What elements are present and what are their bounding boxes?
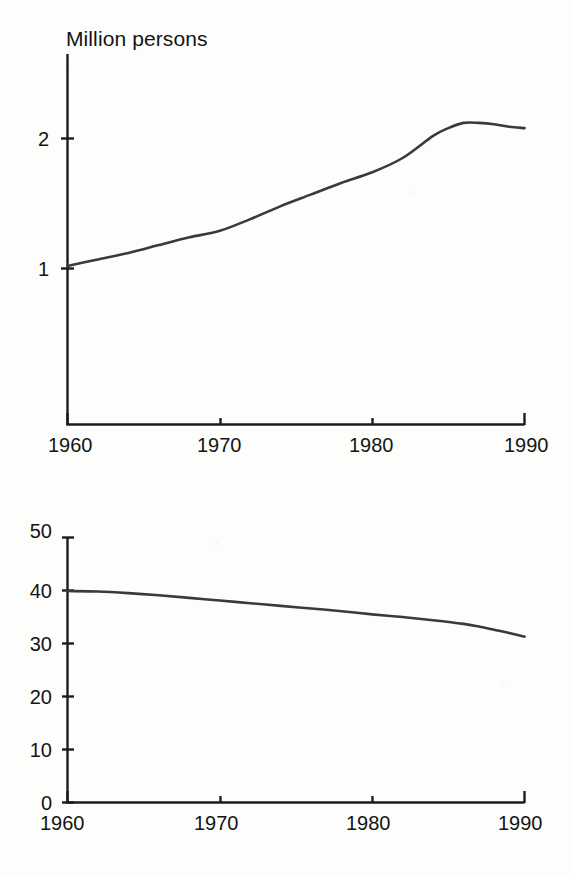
x-tick-label-1980: 1980 bbox=[349, 434, 394, 456]
chart-percent-employment: 50 40 30 20 10 0 1960 1970 1980 1990 bbox=[0, 460, 571, 875]
x-tick-label-1960: 1960 bbox=[40, 812, 85, 834]
y-tick-label-2: 2 bbox=[38, 128, 49, 150]
x-tick-label-1990: 1990 bbox=[498, 812, 543, 834]
y-tick-labels-bottom: 50 40 30 20 10 0 bbox=[30, 520, 52, 814]
y-tick-label-20: 20 bbox=[30, 686, 52, 708]
series-line-million-persons bbox=[68, 122, 525, 265]
y-tick-label-0: 0 bbox=[41, 792, 52, 814]
x-tick-label-1970: 1970 bbox=[194, 812, 239, 834]
y-tick-label-30: 30 bbox=[30, 633, 52, 655]
x-tick-labels-bottom: 1960 1970 1980 1990 bbox=[40, 812, 543, 834]
y-tick-label-50: 50 bbox=[30, 520, 52, 542]
chart-million-persons: 2 1 1960 1970 1980 1990 bbox=[0, 0, 571, 460]
axis-group-bottom bbox=[66, 537, 524, 803]
chart-panel-million-persons: Million persons 2 1 bbox=[0, 0, 571, 460]
y-tick-label-1: 1 bbox=[38, 258, 49, 280]
figure-page: Million persons 2 1 bbox=[0, 0, 571, 875]
chart-panel-percent-employment: Percent of total employment 50 40 30 20 bbox=[0, 460, 571, 875]
y-tick-label-40: 40 bbox=[30, 580, 52, 602]
x-tick-label-1970: 1970 bbox=[197, 434, 242, 456]
y-tick-label-10: 10 bbox=[30, 739, 52, 761]
x-tick-marks-bottom bbox=[68, 791, 525, 803]
x-tick-labels-top: 1960 1970 1980 1990 bbox=[48, 434, 549, 456]
series-line-percent-employment bbox=[68, 591, 525, 637]
x-tick-label-1990: 1990 bbox=[504, 434, 549, 456]
x-tick-label-1980: 1980 bbox=[346, 812, 391, 834]
y-tick-labels-top: 2 1 bbox=[38, 128, 49, 280]
axis-group-top bbox=[66, 54, 524, 425]
x-tick-label-1960: 1960 bbox=[48, 434, 93, 456]
x-tick-marks-top bbox=[68, 413, 525, 425]
